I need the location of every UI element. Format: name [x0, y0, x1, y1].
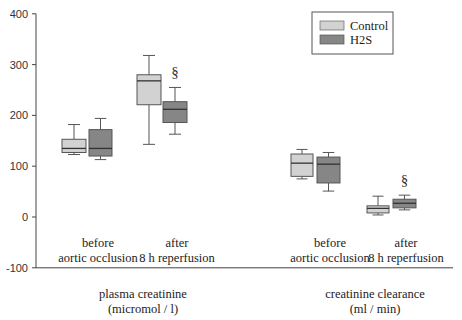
timepoint-label-line2: 8 h reperfusion [368, 251, 444, 265]
legend: Control H2S [312, 12, 393, 54]
box-control [367, 196, 389, 215]
box-iqr [137, 75, 161, 105]
y-tick-label: 300 [10, 59, 28, 71]
group-label-line1: plasma creatinine [99, 287, 187, 301]
box-iqr [317, 157, 340, 183]
legend-label-control: Control [350, 19, 389, 33]
box-h2s: § [393, 172, 416, 210]
y-tick-label: 400 [10, 8, 28, 20]
y-tick-label: -100 [6, 262, 28, 274]
box-iqr [367, 206, 389, 213]
timepoint-label-line2: 8 h reperfusion [139, 251, 215, 265]
timepoint-label-line1: before [82, 236, 114, 250]
box-control [62, 125, 86, 155]
box-control [137, 55, 161, 144]
timepoint-label-line2: aortic occlusion [290, 251, 370, 265]
boxes: §§ [62, 55, 416, 215]
box-iqr [291, 154, 313, 176]
y-tick-label: 0 [22, 211, 28, 223]
legend-label-h2s: H2S [350, 33, 372, 47]
box-iqr [62, 139, 86, 152]
significance-marker: § [401, 172, 409, 188]
timepoint-label-line1: after [166, 236, 190, 250]
significance-marker: § [171, 64, 179, 80]
box-iqr [163, 102, 187, 123]
timepoint-label-line1: after [395, 236, 419, 250]
x-axis-labels: beforeaortic occlusionafter8 h reperfusi… [58, 236, 444, 316]
group-label-line2: (micromol / l) [108, 302, 178, 316]
box-h2s [317, 152, 340, 191]
legend-swatch-h2s [320, 35, 344, 44]
box-iqr [89, 130, 112, 156]
y-tick-label: 200 [10, 109, 28, 121]
box-control [291, 149, 313, 178]
box-h2s [89, 118, 112, 159]
group-label-line1: creatinine clearance [325, 287, 425, 301]
group-label-line2: (ml / min) [350, 302, 401, 316]
timepoint-label-line1: before [314, 236, 346, 250]
legend-swatch-control [320, 21, 344, 30]
box-plot-chart: -1000100200300400 §§ beforeaortic occlus… [0, 0, 462, 320]
y-tick-label: 100 [10, 160, 28, 172]
box-h2s: § [163, 64, 187, 134]
timepoint-label-line2: aortic occlusion [58, 251, 138, 265]
